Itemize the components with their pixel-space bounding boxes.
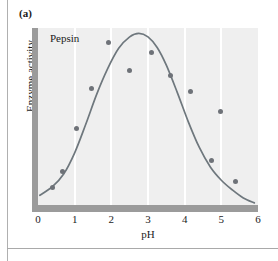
x-tick-label-6: 6: [248, 213, 268, 225]
x-tick-label-0: 0: [28, 213, 48, 225]
x-axis-bar: [32, 205, 258, 212]
plot-area: Pepsin: [38, 28, 258, 205]
x-tick-label-3: 3: [138, 213, 158, 225]
figure-panel-a: (a) Enzyme activity Pepsin 0123456 pH: [0, 0, 278, 261]
page-rule-horizontal: [7, 248, 278, 249]
x-tick-label-5: 5: [211, 213, 231, 225]
data-point: [106, 40, 111, 45]
data-point: [50, 185, 55, 190]
x-tick-label-1: 1: [65, 213, 85, 225]
x-tick-label-2: 2: [101, 213, 121, 225]
fitted-curve: [38, 28, 258, 205]
data-point: [218, 109, 223, 114]
x-tick-label-4: 4: [175, 213, 195, 225]
data-point: [209, 158, 214, 163]
x-axis-title: pH: [38, 228, 258, 240]
page-rule-vertical: [7, 0, 8, 261]
series-label: Pepsin: [50, 32, 79, 44]
